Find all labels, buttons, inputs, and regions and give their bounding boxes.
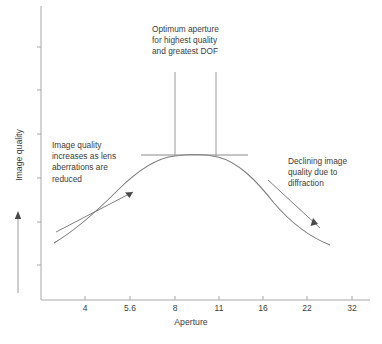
x-axis-ticks bbox=[85, 296, 352, 300]
x-tick-label-11: 11 bbox=[215, 303, 224, 313]
x-tick-label-4: 4 bbox=[83, 303, 88, 313]
annotation-diffraction: Declining image quality due to diffracti… bbox=[288, 156, 347, 190]
x-tick-label-8: 8 bbox=[173, 303, 178, 313]
left-annotation-arrow bbox=[56, 192, 133, 232]
y-axis-title: Image quality bbox=[14, 110, 24, 200]
y-axis-direction-arrow bbox=[15, 211, 21, 293]
aperture-image-quality-chart: Image quality Aperture 4 5.6 8 11 16 22 … bbox=[0, 0, 382, 344]
x-tick-label-32: 32 bbox=[347, 303, 356, 313]
x-tick-label-16: 16 bbox=[258, 303, 267, 313]
x-axis-title: Aperture bbox=[0, 317, 382, 327]
annotation-optimum-aperture: Optimum aperture for highest quality and… bbox=[152, 24, 219, 58]
y-axis-ticks bbox=[37, 47, 41, 265]
annotation-increasing-quality: Image quality increases as lens aberrati… bbox=[52, 140, 116, 185]
x-tick-label-5-6: 5.6 bbox=[124, 303, 136, 313]
x-tick-label-22: 22 bbox=[302, 303, 311, 313]
